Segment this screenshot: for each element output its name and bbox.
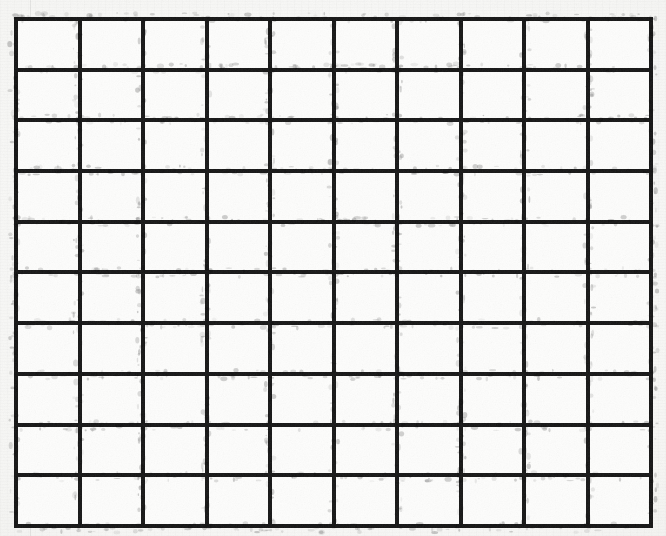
grid-cell[interactable]: [207, 374, 271, 425]
grid-cell[interactable]: [588, 171, 652, 222]
grid-cell[interactable]: [16, 272, 80, 323]
grid-cell[interactable]: [16, 475, 80, 526]
grid-cell[interactable]: [207, 475, 271, 526]
grid-cell[interactable]: [461, 272, 525, 323]
grid-cell[interactable]: [16, 171, 80, 222]
grid-cell[interactable]: [334, 272, 398, 323]
grid-cell[interactable]: [334, 222, 398, 273]
grid-cell[interactable]: [143, 70, 207, 121]
grid-cell[interactable]: [334, 120, 398, 171]
grid-cell[interactable]: [270, 475, 334, 526]
grid-cell[interactable]: [588, 19, 652, 70]
grid-cell[interactable]: [80, 70, 144, 121]
grid-cell[interactable]: [270, 19, 334, 70]
grid-cell[interactable]: [524, 323, 588, 374]
grid-cell[interactable]: [270, 222, 334, 273]
grid-cell[interactable]: [397, 323, 461, 374]
grid-cell[interactable]: [588, 272, 652, 323]
grid-cell[interactable]: [80, 171, 144, 222]
grid-cell[interactable]: [16, 19, 80, 70]
grid-cell[interactable]: [588, 425, 652, 476]
grid-cell[interactable]: [16, 323, 80, 374]
grid-cell[interactable]: [397, 475, 461, 526]
grid-cell[interactable]: [143, 475, 207, 526]
grid-cell[interactable]: [588, 374, 652, 425]
grid-cell[interactable]: [588, 222, 652, 273]
grid-cell[interactable]: [524, 222, 588, 273]
grid-cell[interactable]: [524, 272, 588, 323]
grid-cell[interactable]: [16, 374, 80, 425]
grid-cell[interactable]: [461, 19, 525, 70]
grid-cell[interactable]: [334, 70, 398, 121]
grid-cell[interactable]: [80, 272, 144, 323]
grid-cell[interactable]: [524, 19, 588, 70]
grid-cell[interactable]: [143, 323, 207, 374]
grid-cell[interactable]: [80, 374, 144, 425]
grid-cell[interactable]: [588, 120, 652, 171]
grid-cell[interactable]: [524, 70, 588, 121]
grid-cell[interactable]: [16, 425, 80, 476]
grid-cell[interactable]: [207, 425, 271, 476]
grid-cell[interactable]: [397, 70, 461, 121]
grid-cell[interactable]: [80, 425, 144, 476]
grid-cell[interactable]: [207, 19, 271, 70]
grid-cell[interactable]: [207, 222, 271, 273]
grid-cell[interactable]: [270, 374, 334, 425]
grid-cell[interactable]: [461, 425, 525, 476]
grid-cell[interactable]: [207, 323, 271, 374]
grid-cell[interactable]: [143, 374, 207, 425]
grid-cell[interactable]: [270, 70, 334, 121]
grid-cell[interactable]: [461, 475, 525, 526]
grid-cell[interactable]: [16, 70, 80, 121]
grid-cell[interactable]: [80, 222, 144, 273]
grid-cell[interactable]: [207, 70, 271, 121]
grid-cell[interactable]: [334, 323, 398, 374]
grid-cell[interactable]: [588, 323, 652, 374]
grid-cell[interactable]: [588, 70, 652, 121]
grid-cell[interactable]: [270, 171, 334, 222]
grid-cell[interactable]: [143, 120, 207, 171]
grid-cell[interactable]: [80, 120, 144, 171]
grid-cell[interactable]: [461, 70, 525, 121]
grid-cell[interactable]: [397, 222, 461, 273]
grid-cell[interactable]: [461, 374, 525, 425]
grid-cell[interactable]: [80, 323, 144, 374]
grid-cell[interactable]: [397, 171, 461, 222]
grid-cell[interactable]: [334, 425, 398, 476]
grid-cell[interactable]: [461, 222, 525, 273]
grid-cell[interactable]: [16, 222, 80, 273]
grid-cell[interactable]: [397, 374, 461, 425]
grid-cell[interactable]: [334, 374, 398, 425]
grid-cell[interactable]: [270, 272, 334, 323]
grid-cell[interactable]: [207, 272, 271, 323]
grid-cell[interactable]: [143, 272, 207, 323]
grid-cell[interactable]: [461, 171, 525, 222]
grid-cell[interactable]: [16, 120, 80, 171]
grid-cell[interactable]: [524, 171, 588, 222]
grid-cell[interactable]: [207, 171, 271, 222]
grid-cell[interactable]: [143, 425, 207, 476]
grid-cell[interactable]: [397, 272, 461, 323]
grid-cell[interactable]: [270, 323, 334, 374]
grid-cell[interactable]: [524, 475, 588, 526]
grid-cell[interactable]: [270, 120, 334, 171]
grid-cell[interactable]: [588, 475, 652, 526]
grid-cell[interactable]: [524, 425, 588, 476]
grid-cell[interactable]: [397, 19, 461, 70]
grid-cell[interactable]: [461, 120, 525, 171]
grid-cell[interactable]: [397, 425, 461, 476]
grid-cell[interactable]: [207, 120, 271, 171]
grid-cell[interactable]: [461, 323, 525, 374]
grid-cell[interactable]: [270, 425, 334, 476]
grid-cell[interactable]: [334, 475, 398, 526]
grid-cell[interactable]: [524, 374, 588, 425]
grid-cell[interactable]: [397, 120, 461, 171]
grid-cell[interactable]: [80, 475, 144, 526]
grid-cell[interactable]: [80, 19, 144, 70]
grid-cell[interactable]: [524, 120, 588, 171]
grid-cell[interactable]: [143, 19, 207, 70]
grid-cell[interactable]: [334, 171, 398, 222]
grid-cell[interactable]: [143, 171, 207, 222]
grid-cell[interactable]: [143, 222, 207, 273]
grid-cell[interactable]: [334, 19, 398, 70]
